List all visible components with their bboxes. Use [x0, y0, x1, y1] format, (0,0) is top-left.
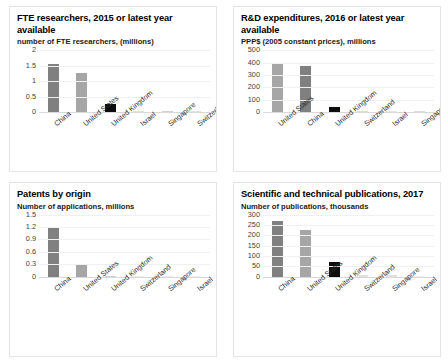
- gridline: [39, 215, 210, 216]
- plot-area: 00.511.52 ChinaUnited StatesUnited Kingd…: [16, 50, 212, 156]
- y-axis-tick: 0: [32, 109, 36, 116]
- gridline: [39, 66, 210, 67]
- y-axis-tick: 500: [248, 47, 260, 54]
- plot-area: 0100200300400500 United StatesChinaUnite…: [240, 50, 436, 156]
- chart-subtitle: Number of applications, millions: [17, 202, 212, 212]
- x-axis-label: Israel: [139, 111, 157, 128]
- y-axis-tick: 100: [248, 252, 260, 259]
- y-axis: 00.511.52: [16, 50, 38, 112]
- gridline: [39, 264, 210, 265]
- y-axis-tick: 150: [248, 242, 260, 249]
- bar-slot: [263, 50, 292, 112]
- chart-title: R&D expenditures, 2016 or latest year av…: [241, 13, 436, 36]
- gridline: [39, 239, 210, 240]
- y-axis-tick: 0.6: [26, 248, 36, 255]
- gridline: [263, 225, 434, 226]
- gridline: [39, 50, 210, 51]
- y-axis-tick: 1.5: [26, 211, 36, 218]
- x-axis-label: China: [53, 275, 72, 293]
- gridline: [39, 81, 210, 82]
- y-axis-tick: 0.9: [26, 236, 36, 243]
- x-axis-label: China: [277, 275, 296, 293]
- gridline: [39, 97, 210, 98]
- chart-card-scientific-publications: Scientific and technical publications, 2…: [233, 182, 441, 357]
- bar-slot: [182, 215, 211, 277]
- bar: [300, 230, 311, 277]
- gridline: [263, 215, 434, 216]
- gridline: [263, 235, 434, 236]
- plot-inner: 0100200300400500: [240, 50, 436, 112]
- y-axis: 00.30.60.91.21.5: [16, 215, 38, 277]
- x-axis-label: Israel: [420, 275, 438, 292]
- y-axis-tick: 1.2: [26, 223, 36, 230]
- chart-card-fte-researchers: FTE researchers, 2015 or latest year ava…: [9, 6, 217, 172]
- chart-card-rd-expenditures: R&D expenditures, 2016 or latest year av…: [233, 6, 441, 172]
- y-axis-tick: 100: [248, 96, 260, 103]
- x-axis: ChinaUnited StatesUnited KingdomIsraelSi…: [39, 112, 210, 156]
- y-axis-tick: 2: [32, 47, 36, 54]
- y-axis-tick: 1: [32, 78, 36, 85]
- y-axis-tick: 50: [252, 263, 260, 270]
- y-axis-tick: 200: [248, 232, 260, 239]
- bar-slot: [320, 50, 349, 112]
- plot-panel: [263, 50, 434, 112]
- gridline: [263, 75, 434, 76]
- y-axis: 0100200300400500: [240, 50, 262, 112]
- bar-slot: [406, 50, 435, 112]
- y-axis-tick: 250: [248, 221, 260, 228]
- x-axis-label: Israel: [391, 111, 409, 128]
- y-axis-tick: 0.5: [26, 93, 36, 100]
- plot-panel: [263, 215, 434, 277]
- bar: [48, 64, 59, 112]
- bar: [76, 265, 87, 277]
- gridline: [263, 50, 434, 51]
- chart-title: Patents by origin: [17, 189, 212, 201]
- gridline: [39, 252, 210, 253]
- gridline: [263, 100, 434, 101]
- bar-slot: [39, 215, 68, 277]
- gridline: [263, 246, 434, 247]
- y-axis-tick: 300: [248, 211, 260, 218]
- chart-title: FTE researchers, 2015 or latest year ava…: [17, 13, 212, 36]
- chart-subtitle: Number of publications, thousands: [241, 202, 436, 212]
- plot-area: 050100150200250300 ChinaUnited StatesUni…: [240, 215, 436, 321]
- gridline: [39, 227, 210, 228]
- y-axis-tick: 0: [256, 273, 260, 280]
- x-axis-label: China: [53, 110, 72, 128]
- x-axis: ChinaUnited StatesUnited KingdomSwitzerl…: [39, 277, 210, 321]
- y-axis-tick: 300: [248, 71, 260, 78]
- y-axis-tick: 1.5: [26, 62, 36, 69]
- chart-subtitle: number of FTE researchers, (millions): [17, 37, 212, 47]
- y-axis: 050100150200250300: [240, 215, 262, 277]
- x-axis: ChinaUnited StatesUnited KingdomSwitzerl…: [263, 277, 434, 321]
- bar-slot: [68, 215, 97, 277]
- y-axis-tick: 0.3: [26, 261, 36, 268]
- y-axis-tick: 200: [248, 84, 260, 91]
- gridline: [263, 256, 434, 257]
- chart-title: Scientific and technical publications, 2…: [241, 189, 436, 201]
- bar-series: [263, 50, 434, 112]
- chart-subtitle: PPP$ (2005 constant prices), millions: [241, 37, 436, 47]
- y-axis-tick: 0: [32, 273, 36, 280]
- gridline: [263, 87, 434, 88]
- chart-card-patents-by-origin: Patents by origin Number of applications…: [9, 182, 217, 357]
- x-axis: United StatesChinaUnited KingdomSwitzerl…: [263, 112, 434, 156]
- gridline: [263, 266, 434, 267]
- x-axis-label: Israel: [196, 275, 214, 292]
- charts-grid: FTE researchers, 2015 or latest year ava…: [0, 0, 448, 361]
- y-axis-tick: 400: [248, 59, 260, 66]
- plot-area: 00.30.60.91.21.5 ChinaUnited StatesUnite…: [16, 215, 212, 321]
- bar: [272, 221, 283, 277]
- bar: [76, 73, 87, 112]
- plot-panel: [39, 215, 210, 277]
- x-axis-label: China: [306, 110, 325, 128]
- plot-panel: [39, 50, 210, 112]
- gridline: [263, 63, 434, 64]
- y-axis-tick: 0: [256, 109, 260, 116]
- bar-series: [39, 215, 210, 277]
